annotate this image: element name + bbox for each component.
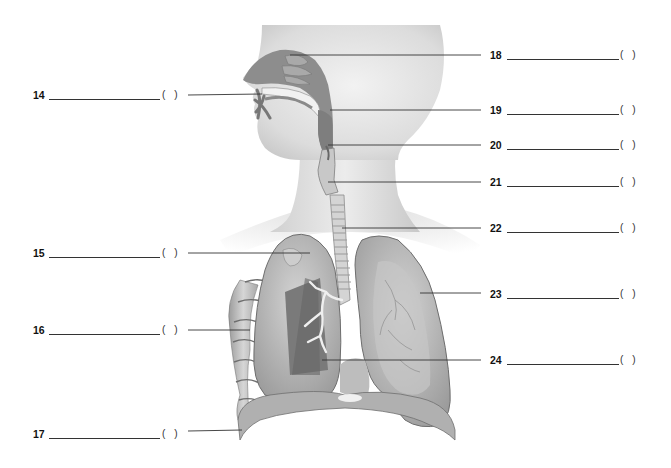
answer-blank-17[interactable]	[49, 438, 160, 439]
bracket-answer-17[interactable]: ()	[162, 428, 178, 439]
answer-blank-21[interactable]	[507, 186, 619, 187]
label-number: 19	[490, 104, 502, 116]
label-16: 16 ()	[33, 324, 193, 338]
heart	[340, 358, 369, 396]
bracket-answer-22[interactable]: ()	[620, 222, 636, 233]
label-23: 23 ()	[490, 288, 660, 302]
label-20: 20 ()	[490, 139, 660, 153]
answer-blank-16[interactable]	[49, 334, 160, 335]
bracket-answer-23[interactable]: ()	[620, 288, 636, 299]
bracket-answer-16[interactable]: ()	[162, 324, 178, 335]
label-number: 22	[490, 222, 502, 234]
answer-blank-15[interactable]	[49, 257, 160, 258]
bracket-answer-18[interactable]: ()	[620, 49, 636, 60]
label-22: 22 ()	[490, 222, 660, 236]
label-number: 24	[490, 354, 502, 366]
answer-blank-24[interactable]	[507, 364, 619, 365]
label-number: 16	[33, 324, 45, 336]
bracket-answer-20[interactable]: ()	[620, 139, 636, 150]
label-number: 23	[490, 288, 502, 300]
bracket-answer-15[interactable]: ()	[162, 247, 178, 258]
label-24: 24 ()	[490, 354, 660, 368]
label-17: 17 ()	[33, 428, 193, 442]
bracket-answer-19[interactable]: ()	[620, 104, 636, 115]
label-number: 20	[490, 139, 502, 151]
answer-blank-22[interactable]	[507, 232, 619, 233]
bracket-answer-24[interactable]: ()	[620, 354, 636, 365]
answer-blank-19[interactable]	[507, 114, 619, 115]
answer-blank-23[interactable]	[507, 298, 619, 299]
bracket-answer-21[interactable]: ()	[620, 176, 636, 187]
label-number: 17	[33, 428, 45, 440]
label-19: 19 ()	[490, 104, 660, 118]
answer-blank-18[interactable]	[507, 59, 619, 60]
label-number: 14	[33, 89, 45, 101]
label-number: 15	[33, 247, 45, 259]
bracket-answer-14[interactable]: ()	[162, 89, 178, 100]
diaphragm-center	[338, 394, 362, 402]
label-number: 21	[490, 176, 502, 188]
label-21: 21 ()	[490, 176, 660, 190]
right-lung	[254, 234, 341, 401]
label-15: 15 ()	[33, 247, 193, 261]
label-18: 18 ()	[490, 49, 660, 63]
answer-blank-20[interactable]	[507, 149, 619, 150]
label-14: 14 ()	[33, 89, 193, 103]
label-number: 18	[490, 49, 502, 61]
answer-blank-14[interactable]	[49, 99, 160, 100]
